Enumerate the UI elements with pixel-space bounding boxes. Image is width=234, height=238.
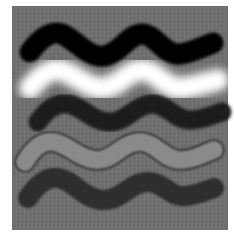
wave-strokes xyxy=(0,0,234,238)
